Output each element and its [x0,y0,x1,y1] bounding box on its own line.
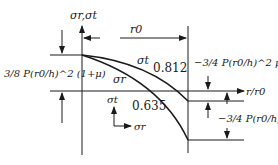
right-top-annotation: −3/4 P(r0/h)^2 μ [194,57,278,68]
right-bottom-annotation: −3/4 P(r0/h)^2 [218,113,278,124]
sigma-t-curve-label: σt [137,54,150,67]
legend-vertical-label: σt [107,94,119,105]
stress-axis-label: σr,σt [70,9,98,22]
sigma-t-value: 0.812 [153,61,187,75]
sigma-r-value: 0.635 [132,99,166,113]
r0-label: r0 [130,23,142,36]
legend-horizontal-label: σr [134,121,147,132]
left-annotation: 3/8 P(r0/h)^2 (1+μ) [4,68,106,79]
stress-distribution-diagram: σr,σt r0 r/r0 3/8 P(r0/h)^2 (1+μ) σt 0.8… [0,0,278,165]
r-axis-label: r/r0 [246,86,266,97]
sigma-r-curve-label: σr [113,73,127,86]
